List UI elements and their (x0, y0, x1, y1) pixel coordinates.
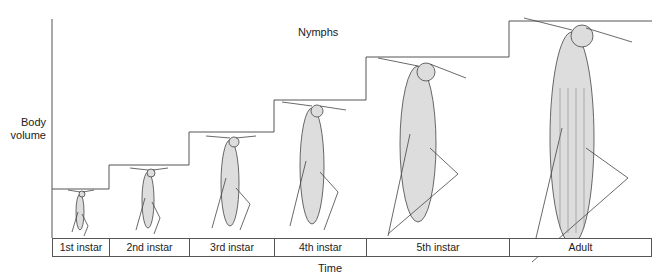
x-axis-label: Time (318, 262, 342, 274)
y-axis-label: Body volume (2, 116, 46, 142)
stage-label-adult: Adult (509, 238, 652, 257)
stage-label-5th-instar: 5th instar (366, 238, 510, 257)
insect-illustrations (68, 18, 632, 262)
stage-label-1st-instar: 1st instar (52, 238, 110, 257)
grasshopper-adult-icon (524, 18, 632, 262)
grasshopper-1st-instar-icon (68, 190, 94, 236)
grasshopper-4th-instar-icon (282, 102, 346, 230)
stage-label-3rd-instar: 3rd instar (189, 238, 275, 257)
grasshopper-2nd-instar-icon (130, 168, 168, 234)
grasshopper-3rd-instar-icon (206, 136, 256, 230)
nymphs-label: Nymphs (298, 26, 338, 38)
stage-label-4th-instar: 4th instar (274, 238, 367, 257)
stage-label-2nd-instar: 2nd instar (109, 238, 190, 257)
grasshopper-5th-instar-icon (378, 58, 466, 236)
